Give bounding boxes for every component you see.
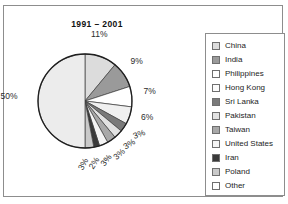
figure-frame: 1991 – 2001 11%9%7%6%3%3%3%3%2%3%50% Chi… — [3, 5, 283, 197]
legend-swatch — [212, 112, 220, 120]
legend-swatch — [212, 84, 220, 92]
legend-swatch — [212, 140, 220, 148]
legend-item[interactable]: China — [212, 39, 284, 53]
legend-swatch — [212, 42, 220, 50]
legend-item-label: Taiwan — [225, 126, 250, 134]
legend-item-label: Hong Kong — [225, 84, 265, 92]
legend-item[interactable]: Other — [212, 179, 284, 193]
legend-item[interactable]: India — [212, 53, 284, 67]
pie-value-label: 9% — [130, 56, 142, 66]
legend-swatch — [212, 56, 220, 64]
legend-item-label: Philippines — [225, 70, 264, 78]
legend-item[interactable]: Poland — [212, 165, 284, 179]
legend-swatch — [212, 182, 220, 190]
pie-value-label: 3% — [75, 156, 90, 172]
legend-item-label: Sri Lanka — [225, 98, 259, 106]
chart-legend: ChinaIndiaPhilippinesHong KongSri LankaP… — [205, 33, 285, 196]
legend-item-label: Pakistan — [225, 112, 256, 120]
pie-value-label: 11% — [91, 29, 107, 39]
legend-item[interactable]: Sri Lanka — [212, 95, 284, 109]
legend-item-label: United States — [225, 140, 273, 148]
legend-item[interactable]: Iran — [212, 151, 284, 165]
legend-item[interactable]: Pakistan — [212, 109, 284, 123]
legend-item[interactable]: Hong Kong — [212, 81, 284, 95]
legend-item-label: Poland — [225, 168, 250, 176]
legend-swatch — [212, 98, 220, 106]
legend-swatch — [212, 70, 220, 78]
legend-item-label: India — [225, 56, 242, 64]
legend-item-label: Other — [225, 182, 245, 190]
pie-value-label: 6% — [141, 112, 153, 122]
pie-slice[interactable] — [38, 54, 85, 148]
legend-item-label: Iran — [225, 154, 239, 162]
pie-value-label: 7% — [144, 86, 156, 96]
legend-swatch — [212, 168, 220, 176]
legend-swatch — [212, 154, 220, 162]
legend-item[interactable]: Philippines — [212, 67, 284, 81]
legend-item[interactable]: United States — [212, 137, 284, 151]
pie-chart — [37, 53, 133, 149]
chart-title: 1991 – 2001 — [4, 19, 190, 29]
pie-svg — [37, 53, 133, 149]
pie-value-label: 50% — [0, 91, 17, 101]
legend-item-label: China — [225, 42, 246, 50]
legend-swatch — [212, 126, 220, 134]
legend-item[interactable]: Taiwan — [212, 123, 284, 137]
